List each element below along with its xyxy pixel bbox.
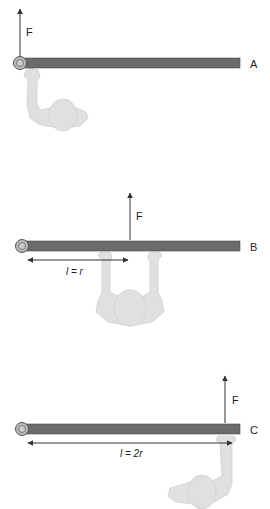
torque-diagram: F A F l = r B F l = xyxy=(0,0,270,509)
panel-label-c: C xyxy=(250,424,258,436)
panel-label-a: A xyxy=(250,58,258,70)
force-label: F xyxy=(136,210,143,222)
panel-b: F l = r B xyxy=(16,193,258,326)
rod xyxy=(20,58,240,68)
panel-c: F l = 2r C xyxy=(16,376,259,509)
panel-a: F A xyxy=(14,9,259,131)
force-label: F xyxy=(26,26,33,38)
lever-arm-label: l = r xyxy=(66,266,84,277)
force-label: F xyxy=(232,394,239,406)
rod xyxy=(20,241,240,251)
panel-label-b: B xyxy=(250,241,257,253)
pivot xyxy=(14,57,27,70)
person-figure xyxy=(24,68,88,131)
person-figure xyxy=(96,252,164,326)
pivot xyxy=(16,423,29,436)
pivot xyxy=(16,240,29,253)
lever-arm-label: l = 2r xyxy=(120,448,143,459)
person-figure xyxy=(168,436,236,509)
rod xyxy=(20,424,240,434)
